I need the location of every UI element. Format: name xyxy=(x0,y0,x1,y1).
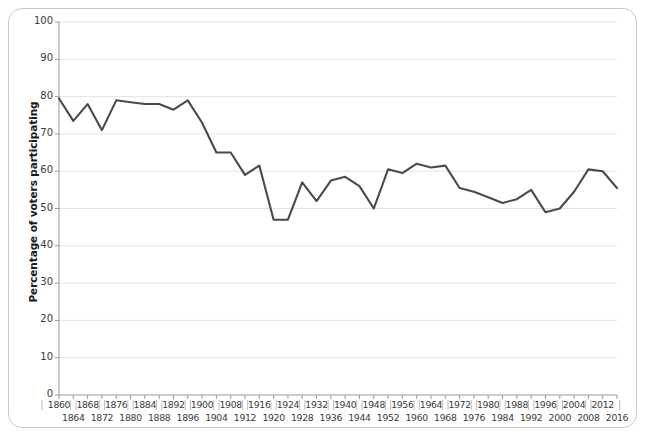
turnout-line xyxy=(59,98,617,219)
line-plot xyxy=(0,0,651,441)
gridlines xyxy=(59,22,617,358)
chart-figure: Percentage of voters participating 01020… xyxy=(0,0,651,441)
tick-marks xyxy=(42,22,620,410)
